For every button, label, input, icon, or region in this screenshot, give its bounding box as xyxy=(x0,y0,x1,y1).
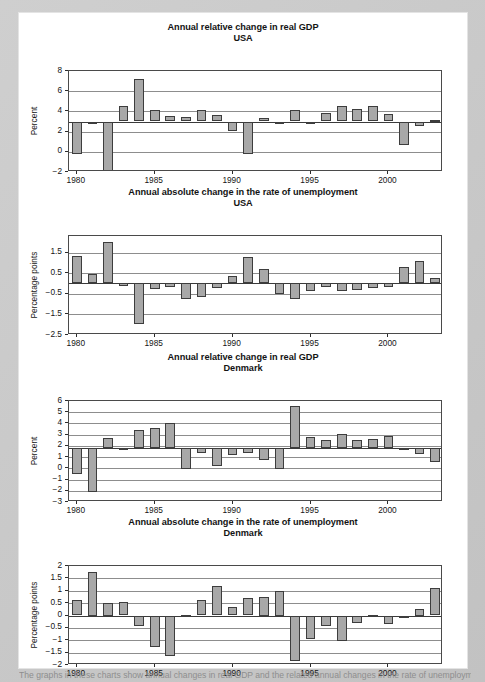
bar xyxy=(72,448,82,474)
bar xyxy=(134,430,144,449)
bar xyxy=(399,616,409,618)
bar xyxy=(197,600,207,616)
bar xyxy=(352,440,362,448)
chart-title-line1: Annual relative change in real GDP xyxy=(168,22,319,32)
bar xyxy=(321,113,331,121)
gridline xyxy=(69,578,441,579)
bar xyxy=(134,79,144,121)
x-tick-mark xyxy=(154,664,155,667)
y-tick-label: 0 xyxy=(19,609,62,619)
bar xyxy=(103,438,113,448)
x-tick-mark xyxy=(310,334,311,337)
chart-usa-gdp: Annual relative change in real GDPUSA−20… xyxy=(19,22,467,187)
bar xyxy=(228,448,238,455)
bar xyxy=(181,283,191,298)
bar xyxy=(259,269,269,283)
chart-subtitle: Denmark xyxy=(19,363,467,374)
y-tick-label: −2.5 xyxy=(19,329,62,339)
bar xyxy=(72,256,82,284)
bar xyxy=(88,274,98,283)
x-tick-label: 1990 xyxy=(212,505,252,515)
y-tick-mark xyxy=(65,664,68,665)
bar xyxy=(368,615,378,617)
x-tick-mark xyxy=(232,664,233,667)
bar xyxy=(228,122,238,131)
chart-title: Annual absolute change in the rate of un… xyxy=(19,517,467,539)
y-tick-mark xyxy=(65,171,68,172)
bar xyxy=(275,283,285,293)
x-tick-mark xyxy=(76,334,77,337)
y-axis-label: Percentage points xyxy=(29,581,39,648)
bar xyxy=(150,428,160,448)
y-tick-label: −1.5 xyxy=(19,308,62,318)
bar xyxy=(306,437,316,448)
document-page: Annual relative change in real GDPUSA−20… xyxy=(19,13,467,668)
y-tick-label: 1 xyxy=(19,451,62,461)
bar xyxy=(212,115,222,121)
x-tick-mark xyxy=(310,171,311,174)
bar xyxy=(88,572,98,615)
bar xyxy=(415,609,425,615)
bar xyxy=(321,440,331,448)
y-tick-label: 0.5 xyxy=(19,267,62,277)
x-tick-label: 1985 xyxy=(134,505,174,515)
bar xyxy=(150,110,160,121)
bar xyxy=(197,283,207,296)
bar xyxy=(399,122,409,145)
x-tick-mark xyxy=(232,501,233,504)
chart-usa-unemployment: Annual absolute change in the rate of un… xyxy=(19,187,467,350)
bar xyxy=(150,616,160,647)
y-tick-label: 1.5 xyxy=(19,246,62,256)
chart-denmark-gdp: Annual relative change in real GDPDenmar… xyxy=(19,352,467,517)
bar xyxy=(368,439,378,449)
gridline xyxy=(69,132,441,133)
x-tick-mark xyxy=(76,664,77,667)
bar xyxy=(337,106,347,121)
x-tick-label: 2000 xyxy=(367,505,407,515)
bar xyxy=(321,283,331,286)
y-tick-label: 6 xyxy=(19,395,62,405)
x-tick-label: 1980 xyxy=(56,175,96,185)
x-tick-mark xyxy=(154,334,155,337)
x-tick-label: 1995 xyxy=(290,338,330,348)
chart-title-line1: Annual absolute change in the rate of un… xyxy=(128,187,357,197)
gridline xyxy=(69,273,441,274)
y-axis-label: Percent xyxy=(29,436,39,465)
bar xyxy=(352,109,362,121)
gridline xyxy=(69,423,441,424)
bar xyxy=(181,448,191,469)
chart-subtitle: Denmark xyxy=(19,528,467,539)
bar xyxy=(384,616,394,625)
bar xyxy=(181,117,191,121)
y-tick-mark xyxy=(65,501,68,502)
bar xyxy=(119,106,129,121)
gridline xyxy=(69,253,441,254)
chart-subtitle: USA xyxy=(19,33,467,44)
chart-subtitle: USA xyxy=(19,198,467,209)
bar xyxy=(275,122,285,124)
gridline xyxy=(69,152,441,153)
bar xyxy=(197,448,207,452)
x-tick-label: 1985 xyxy=(134,338,174,348)
bar xyxy=(290,283,300,298)
x-tick-mark xyxy=(154,501,155,504)
bar xyxy=(306,283,316,290)
y-axis-label: Percent xyxy=(29,106,39,135)
bar xyxy=(337,434,347,448)
bar xyxy=(181,615,191,617)
bar xyxy=(384,436,394,448)
x-tick-mark xyxy=(154,171,155,174)
baseline xyxy=(69,122,441,123)
bar xyxy=(384,114,394,121)
bar xyxy=(134,616,144,626)
y-tick-label: −1.5 xyxy=(19,646,62,656)
gridline xyxy=(69,468,441,469)
bar xyxy=(243,122,253,154)
x-tick-label: 1980 xyxy=(56,338,96,348)
gridline xyxy=(69,457,441,458)
bar xyxy=(165,423,175,448)
bar xyxy=(88,448,98,492)
bar xyxy=(243,448,253,453)
figure-caption: The graphs in these charts show annual c… xyxy=(19,670,471,681)
y-tick-label: 1 xyxy=(19,584,62,594)
